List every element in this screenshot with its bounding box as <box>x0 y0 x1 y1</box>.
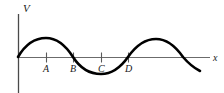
tick-label-d: D <box>124 63 133 74</box>
figure-container: V x A B C D <box>0 0 224 93</box>
sine-wave-figure: V x A B C D <box>0 0 224 93</box>
x-axis-label: x <box>212 52 218 63</box>
tick-label-c: C <box>98 63 105 74</box>
tick-label-b: B <box>70 63 76 74</box>
figure-background <box>0 0 224 93</box>
tick-label-a: A <box>42 63 50 74</box>
